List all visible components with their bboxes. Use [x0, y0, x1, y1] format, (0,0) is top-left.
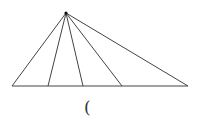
triangle-figure — [0, 0, 197, 122]
figure-lines — [12, 13, 188, 86]
apex-point — [64, 11, 67, 14]
apex-segment-1 — [48, 13, 66, 86]
apex-segment-0 — [12, 13, 66, 86]
apex-segment-4 — [66, 13, 188, 86]
answer-blank-paren: ( — [84, 97, 91, 117]
